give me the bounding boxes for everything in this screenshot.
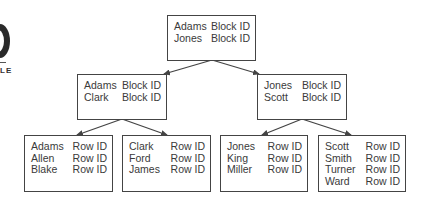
leaf-entry: Adams Row ID bbox=[31, 141, 107, 153]
entry-key: Scott bbox=[264, 92, 288, 104]
entry-key: Turner bbox=[325, 164, 356, 176]
entry-pointer: Block ID bbox=[122, 80, 161, 92]
entry-pointer: Row ID bbox=[171, 164, 205, 176]
entry-pointer: Row ID bbox=[268, 141, 302, 153]
entry-key: Adams bbox=[174, 21, 207, 33]
edge-left-leaf1 bbox=[77, 119, 122, 135]
leaf-entry: Miller Row ID bbox=[227, 164, 302, 176]
leaf-entry: Ward Row ID bbox=[325, 176, 400, 188]
entry-pointer: Block ID bbox=[122, 92, 161, 104]
entry-key: Ward bbox=[325, 176, 350, 188]
edge-root-right bbox=[212, 60, 259, 74]
entry-key: Adams bbox=[84, 80, 117, 92]
root-node: Adams Block ID Jones Block ID bbox=[167, 15, 256, 61]
leaf-node-3: Jones Row ID King Row ID Miller Row ID bbox=[220, 135, 308, 192]
edge-right-leaf4 bbox=[302, 119, 351, 135]
entry-pointer: Block ID bbox=[302, 92, 341, 104]
entry-key: Scott bbox=[325, 141, 349, 153]
entry-pointer: Block ID bbox=[302, 80, 341, 92]
entry-key: Clark bbox=[129, 141, 154, 153]
entry-pointer: Block ID bbox=[211, 21, 250, 33]
leaf-node-4: Scott Row ID Smith Row ID Turner Row ID … bbox=[318, 135, 406, 192]
entry-key: James bbox=[129, 164, 160, 176]
entry-key: Blake bbox=[31, 164, 57, 176]
leaf-entry: Blake Row ID bbox=[31, 164, 107, 176]
entry-key: Jones bbox=[264, 80, 292, 92]
index-entry: Adams Block ID bbox=[174, 21, 250, 33]
entry-key: Clark bbox=[84, 92, 109, 104]
edge-left-leaf2 bbox=[122, 119, 167, 135]
entry-pointer: Row ID bbox=[366, 141, 400, 153]
leaf-entry: Clark Row ID bbox=[129, 141, 205, 153]
branch-node-left: Adams Block ID Clark Block ID bbox=[77, 74, 167, 120]
leaf-entry: Turner Row ID bbox=[325, 164, 400, 176]
entry-pointer: Row ID bbox=[171, 141, 205, 153]
index-entry: Adams Block ID bbox=[84, 80, 161, 92]
branch-node-right: Jones Block ID Scott Block ID bbox=[257, 74, 347, 120]
index-entry: Jones Block ID bbox=[264, 80, 341, 92]
edge-right-leaf3 bbox=[262, 119, 302, 135]
entry-pointer: Row ID bbox=[73, 164, 107, 176]
entry-pointer: Row ID bbox=[73, 141, 107, 153]
entry-key: Miller bbox=[227, 164, 252, 176]
edge-root-left bbox=[164, 60, 212, 74]
leaf-entry: Scott Row ID bbox=[325, 141, 400, 153]
leaf-entry: Jones Row ID bbox=[227, 141, 302, 153]
leaf-entry: James Row ID bbox=[129, 164, 205, 176]
entry-pointer: Row ID bbox=[268, 164, 302, 176]
index-entry: Clark Block ID bbox=[84, 92, 161, 104]
entry-pointer: Block ID bbox=[211, 33, 250, 45]
entry-pointer: Row ID bbox=[366, 176, 400, 188]
leaf-node-1: Adams Row ID Allen Row ID Blake Row ID bbox=[24, 135, 113, 192]
index-entry: Scott Block ID bbox=[264, 92, 341, 104]
entry-key: Jones bbox=[227, 141, 255, 153]
entry-pointer: Row ID bbox=[366, 164, 400, 176]
entry-key: Jones bbox=[174, 33, 202, 45]
entry-key: Adams bbox=[31, 141, 64, 153]
index-entry: Jones Block ID bbox=[174, 33, 250, 45]
leaf-node-2: Clark Row ID Ford Row ID James Row ID bbox=[122, 135, 211, 192]
